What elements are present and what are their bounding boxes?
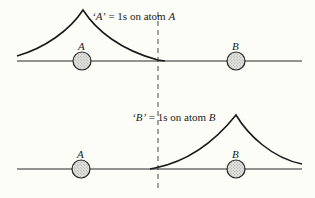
orbital-diagram: A B ‘A’ = 1s on atom A A B ‘B’ = 1s on a… [0, 0, 315, 198]
atom-b-bottom [227, 160, 245, 178]
orbital-label-a: ‘A’ = 1s on atom A [92, 10, 175, 22]
panel-a: A B ‘A’ = 1s on atom A [17, 10, 302, 70]
atom-b-top [227, 52, 245, 70]
panel-b: A B ‘B’ = 1s on atom B [17, 111, 302, 178]
atom-b-top-label: B [232, 40, 239, 52]
atom-a-bottom-label: A [76, 148, 84, 160]
atom-a-bottom [72, 160, 90, 178]
atom-a-top [73, 52, 91, 70]
atom-b-bottom-label: B [232, 148, 239, 160]
atom-a-top-label: A [77, 40, 85, 52]
orbital-curve-b [150, 115, 302, 169]
orbital-label-b: ‘B’ = 1s on atom B [132, 111, 216, 123]
